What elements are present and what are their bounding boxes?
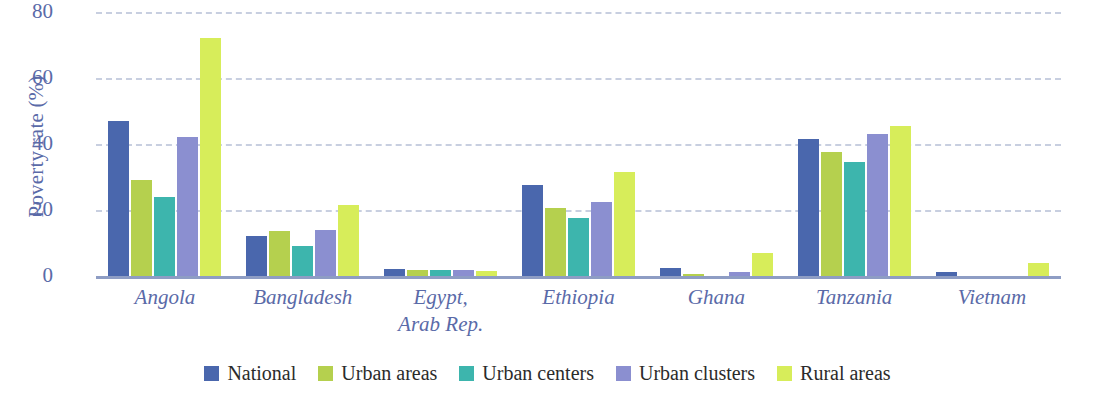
legend-label: Rural areas <box>800 362 891 385</box>
bar <box>154 197 175 276</box>
bar <box>177 137 198 276</box>
bar <box>936 272 957 276</box>
x-axis-category-label: Egypt,Arab Rep. <box>372 284 510 338</box>
x-axis-category-labels: AngolaBangladeshEgypt,Arab Rep.EthiopiaG… <box>96 284 1061 338</box>
x-axis-category-label: Ghana <box>647 284 785 338</box>
bar <box>867 134 888 276</box>
bar <box>292 246 313 276</box>
legend-label: Urban centers <box>482 362 594 385</box>
bar <box>660 268 681 276</box>
bar <box>522 185 543 276</box>
plot-area: 020406080 <box>96 12 1061 276</box>
y-axis-tick-label: 20 <box>0 197 53 222</box>
x-axis-category-label: Bangladesh <box>234 284 372 338</box>
x-axis-category-label: Tanzania <box>785 284 923 338</box>
bar <box>384 269 405 276</box>
bar <box>108 121 129 276</box>
legend-label: National <box>227 362 296 385</box>
bar <box>614 172 635 276</box>
bar <box>1028 263 1049 276</box>
legend-swatch-icon <box>459 366 474 381</box>
bar <box>683 274 704 276</box>
bar-group <box>234 12 372 276</box>
y-axis-tick-label: 0 <box>0 263 53 288</box>
bar <box>729 272 750 276</box>
bar-groups <box>96 12 1061 276</box>
legend-swatch-icon <box>777 366 792 381</box>
bar <box>131 180 152 276</box>
x-axis-category-label: Ethiopia <box>510 284 648 338</box>
bar <box>545 208 566 276</box>
legend-label: Urban areas <box>341 362 437 385</box>
bar <box>821 152 842 276</box>
legend-item[interactable]: Urban areas <box>318 362 437 385</box>
y-axis-tick-label: 40 <box>0 131 53 156</box>
y-axis-tick-label: 80 <box>0 0 53 24</box>
bar <box>752 253 773 276</box>
bar <box>798 139 819 276</box>
x-axis-category-label: Vietnam <box>923 284 1061 338</box>
legend-swatch-icon <box>318 366 333 381</box>
bar <box>338 205 359 276</box>
x-axis-category-label: Angola <box>96 284 234 338</box>
legend-item[interactable]: Rural areas <box>777 362 891 385</box>
legend-label: Urban clusters <box>639 362 755 385</box>
bar <box>246 236 267 276</box>
bar <box>890 126 911 276</box>
bar <box>430 270 451 276</box>
grouped-bar-chart: Poverty rate (%) 020406080 AngolaBanglad… <box>0 0 1095 394</box>
bar-group <box>96 12 234 276</box>
y-axis-tick-label: 60 <box>0 65 53 90</box>
bar <box>476 271 497 276</box>
bar-group <box>785 12 923 276</box>
bar-group <box>510 12 648 276</box>
bar <box>200 38 221 276</box>
chart-legend: NationalUrban areasUrban centersUrban cl… <box>0 362 1095 385</box>
bar-group <box>923 12 1061 276</box>
bar <box>568 218 589 276</box>
legend-item[interactable]: Urban centers <box>459 362 594 385</box>
bar <box>269 231 290 276</box>
axis-baseline <box>96 276 1061 279</box>
legend-swatch-icon <box>204 366 219 381</box>
legend-swatch-icon <box>616 366 631 381</box>
bar <box>315 230 336 276</box>
bar <box>453 270 474 276</box>
legend-item[interactable]: Urban clusters <box>616 362 755 385</box>
bar <box>844 162 865 276</box>
bar <box>591 202 612 276</box>
legend-item[interactable]: National <box>204 362 296 385</box>
bar-group <box>647 12 785 276</box>
bar <box>407 270 428 276</box>
bar-group <box>372 12 510 276</box>
